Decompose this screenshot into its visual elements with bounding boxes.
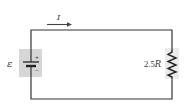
current-arrow-icon	[47, 22, 72, 26]
bottom-wire	[31, 68, 172, 99]
emf-label: ε	[7, 58, 12, 69]
battery-plus-label: +	[35, 54, 39, 62]
circuit-diagram: + − ε 2.5R I	[0, 0, 185, 110]
top-wire	[31, 30, 172, 58]
current-label: I	[56, 13, 61, 22]
battery-minus-label: −	[35, 67, 39, 75]
resistor-value-label: 2.5R	[144, 59, 162, 69]
